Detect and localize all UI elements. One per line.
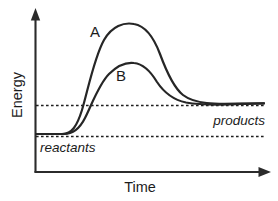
x-axis-label: Time	[124, 179, 156, 195]
products-label: products	[212, 113, 265, 128]
diagram-canvas: Energy Time A B reactants products	[0, 0, 278, 201]
arrow-up-icon	[31, 8, 40, 21]
curve-label-b: B	[116, 67, 126, 84]
labels-group: Energy Time A B reactants products	[9, 23, 265, 195]
energy-time-diagram: Energy Time A B reactants products	[0, 0, 278, 201]
reactants-label: reactants	[40, 140, 96, 155]
curve-label-a: A	[90, 23, 100, 40]
arrow-right-icon	[259, 167, 272, 177]
y-axis-label: Energy	[9, 71, 25, 118]
